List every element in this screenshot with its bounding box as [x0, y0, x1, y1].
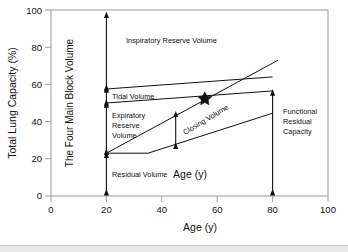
- label-closing-volume: Closing Volume: [181, 103, 230, 137]
- label-age-inner: Age (y): [173, 168, 207, 180]
- x-tick-labels: 0 20 40 60 80 100: [48, 204, 336, 215]
- y-tick-20: 20: [31, 153, 42, 164]
- x-tick-80: 80: [267, 204, 278, 215]
- footer-bar: [0, 245, 348, 252]
- y-tick-60: 60: [31, 79, 42, 90]
- lung-volume-chart: 0 20 40 60 80 100 0 20 40 60 80 100 Age …: [0, 0, 348, 245]
- x-tick-20: 20: [101, 204, 112, 215]
- label-erv-line3: Volume: [112, 131, 137, 140]
- label-erv-line1: Expiratory: [112, 111, 146, 120]
- y-axis-title: Total Lung Capacity (%): [6, 47, 18, 158]
- y-tick-labels: 0 20 40 60 80 100: [26, 5, 42, 202]
- y-tick-0: 0: [37, 190, 42, 201]
- label-frc-line1: Functional: [283, 107, 317, 116]
- x-tick-100: 100: [320, 204, 336, 215]
- x-tick-40: 40: [157, 204, 168, 215]
- x-tick-0: 0: [48, 204, 53, 215]
- y-tick-100: 100: [26, 5, 42, 16]
- label-expiratory-reserve-volume: Expiratory Reserve Volume: [112, 111, 146, 140]
- y-axis-ticks: [45, 10, 51, 196]
- label-inspiratory-reserve-volume: Inspiratory Reserve Volume: [126, 36, 217, 45]
- label-frc-line2: Residual: [283, 117, 312, 126]
- label-tidal-volume: Tidal Volume: [112, 92, 154, 101]
- x-axis-ticks: [51, 196, 328, 202]
- y-tick-80: 80: [31, 42, 42, 53]
- label-functional-residual-capacity: Functional Residual Capacity: [283, 107, 317, 136]
- y-tick-40: 40: [31, 116, 42, 127]
- label-erv-line2: Reserve: [112, 121, 140, 130]
- x-tick-60: 60: [212, 204, 223, 215]
- label-frc-line3: Capacity: [283, 127, 312, 136]
- four-main-block-volume-label: The Four Main Block Volume: [64, 38, 75, 167]
- x-axis-title: Age (y): [183, 221, 217, 233]
- curve-tlc-top: [106, 77, 272, 89]
- label-residual-volume: Residual Volume: [112, 170, 167, 179]
